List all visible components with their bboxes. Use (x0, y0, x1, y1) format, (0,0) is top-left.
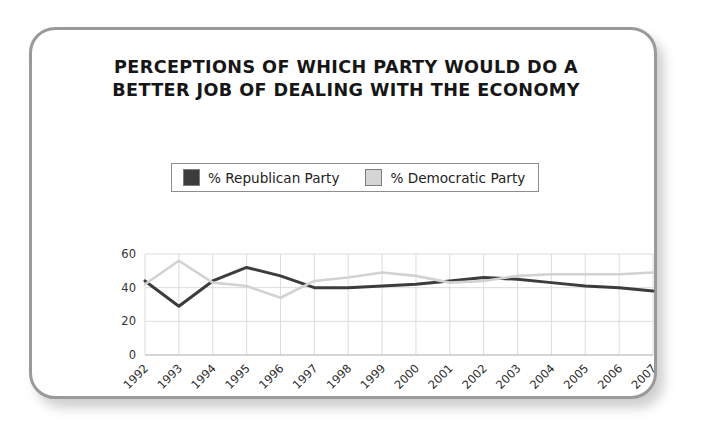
chart-card: PERCEPTIONS OF WHICH PARTY WOULD DO A BE… (29, 27, 657, 399)
y-tick-label: 60 (121, 247, 136, 261)
y-axis-ticks: 0204060 (121, 247, 136, 362)
x-tick-label: 1993 (154, 361, 185, 392)
series-line-democratic (145, 261, 653, 298)
y-tick-label: 0 (129, 348, 136, 362)
legend-label-republican: % Republican Party (208, 170, 339, 186)
legend-item-republican[interactable]: % Republican Party (183, 169, 339, 186)
line-chart-svg: 0204060 19921993199419951996199719981999… (32, 210, 660, 400)
x-tick-label: 1999 (358, 361, 389, 392)
title-line-1: PERCEPTIONS OF WHICH PARTY WOULD DO A (32, 56, 660, 79)
x-tick-label: 2001 (425, 361, 456, 392)
x-tick-label: 1994 (188, 361, 219, 392)
x-axis-ticks: 1992199319941995199619971998199920002001… (121, 361, 660, 392)
legend-swatch-democratic (365, 169, 382, 186)
plot-area: 0204060 19921993199419951996199719981999… (32, 210, 660, 400)
data-series (145, 261, 653, 306)
x-tick-label: 2004 (527, 361, 558, 392)
screenshot-root: PERCEPTIONS OF WHICH PARTY WOULD DO A BE… (0, 0, 703, 445)
legend-swatch-republican (183, 169, 200, 186)
x-tick-label: 1992 (121, 361, 152, 392)
x-tick-label: 1998 (324, 361, 355, 392)
x-tick-label: 2003 (493, 361, 524, 392)
x-tick-label: 2002 (459, 361, 490, 392)
x-tick-label: 2005 (561, 361, 592, 392)
gridlines (145, 254, 653, 355)
page-title: PERCEPTIONS OF WHICH PARTY WOULD DO A BE… (32, 56, 660, 102)
x-tick-label: 1996 (256, 361, 287, 392)
chart-legend: % Republican Party % Democratic Party (171, 163, 539, 192)
x-tick-label: 2006 (595, 361, 626, 392)
y-tick-label: 40 (121, 281, 136, 295)
x-tick-label: 1997 (290, 361, 321, 392)
legend-label-democratic: % Democratic Party (390, 170, 525, 186)
y-tick-label: 20 (121, 314, 136, 328)
x-tick-label: 2000 (391, 361, 422, 392)
title-line-2: BETTER JOB OF DEALING WITH THE ECONOMY (32, 79, 660, 102)
x-tick-label: 1995 (222, 361, 253, 392)
x-tick-label: 2007 (629, 361, 660, 392)
legend-item-democratic[interactable]: % Democratic Party (365, 169, 525, 186)
